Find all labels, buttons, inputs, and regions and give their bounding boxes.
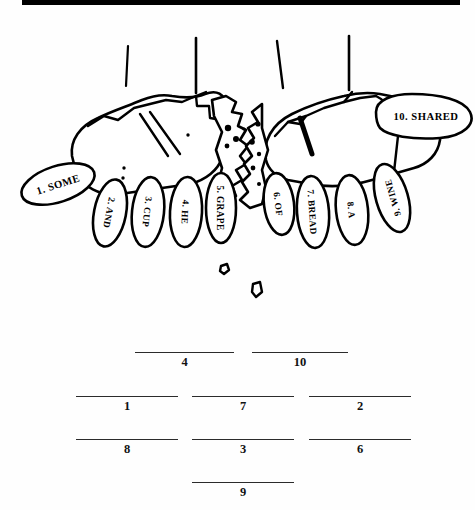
top-divider-bar — [22, 0, 460, 5]
answer-blank-8[interactable]: 8 — [76, 439, 178, 461]
crumb-2 — [252, 282, 262, 297]
crumb-1 — [220, 264, 229, 274]
answer-blanks-area: 4 10 1 7 2 8 3 6 — [0, 340, 475, 510]
left-sleeve-line-a — [126, 46, 128, 86]
answer-blank-rule — [252, 352, 348, 353]
answer-blank-10[interactable]: 10 — [252, 352, 348, 374]
answer-blank-9[interactable]: 9 — [192, 482, 294, 504]
answer-blank-number: 2 — [309, 399, 411, 413]
finger-label-8-text: 8. A — [345, 201, 357, 219]
answer-blank-number: 3 — [192, 442, 294, 456]
answer-blank-number: 9 — [192, 485, 294, 499]
answer-blank-rule — [192, 396, 294, 397]
answer-blank-number: 7 — [192, 399, 294, 413]
worksheet-page: 1. SOME 2. AND 3. CUP 4. HE 5. GRAPE 6. … — [0, 0, 475, 510]
answer-blank-rule — [192, 439, 294, 440]
answer-blank-6[interactable]: 6 — [309, 439, 411, 461]
right-sleeve-line-a — [277, 41, 283, 88]
finger-label-5-text: 5. GRAPE — [215, 185, 225, 230]
answer-blank-rule — [135, 352, 234, 353]
answer-blank-rule — [309, 396, 411, 397]
answer-blank-1[interactable]: 1 — [76, 396, 178, 418]
finger-label-8-a: 8. A — [332, 174, 371, 247]
answer-blank-number: 1 — [76, 399, 178, 413]
answer-blank-number: 6 — [309, 442, 411, 456]
finger-label-5-grape: 5. GRAPE — [206, 173, 236, 243]
finger-label-4-text: 4. HE — [179, 199, 190, 224]
answer-blank-rule — [76, 396, 178, 397]
answer-blank-number: 10 — [252, 355, 348, 369]
finger-label-9-wine: 9. WINE — [367, 160, 417, 236]
answer-blank-rule — [76, 439, 178, 440]
answer-blank-3[interactable]: 3 — [192, 439, 294, 461]
answer-blank-2[interactable]: 2 — [309, 396, 411, 418]
answer-blank-7[interactable]: 7 — [192, 396, 294, 418]
finger-label-10-shared: 10. SHARED — [376, 94, 472, 139]
finger-label-10-text: 10. SHARED — [393, 111, 458, 122]
answer-blank-4[interactable]: 4 — [135, 352, 234, 374]
answer-blank-rule — [309, 439, 411, 440]
answer-blank-number: 8 — [76, 442, 178, 456]
hands-breaking-bread-illustration: 1. SOME 2. AND 3. CUP 4. HE 5. GRAPE 6. … — [0, 8, 475, 328]
bread-crumbs — [220, 264, 262, 297]
answer-blank-rule — [192, 482, 294, 483]
answer-blank-number: 4 — [135, 355, 234, 369]
